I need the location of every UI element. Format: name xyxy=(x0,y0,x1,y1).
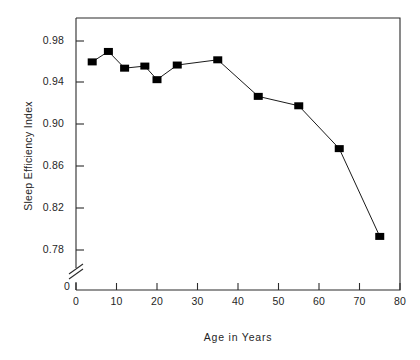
data-point-marker xyxy=(140,63,149,70)
y-axis-ticks xyxy=(76,41,84,250)
xtick-label-10: 10 xyxy=(105,295,129,307)
xtick-label-80: 80 xyxy=(388,295,412,307)
xtick-label-20: 20 xyxy=(145,295,169,307)
xtick-label-60: 60 xyxy=(307,295,331,307)
plot-frame xyxy=(76,18,400,290)
xtick-label-40: 40 xyxy=(226,295,250,307)
data-point-marker xyxy=(120,65,129,72)
data-point-marker xyxy=(88,58,97,65)
xtick-label-70: 70 xyxy=(348,295,372,307)
series-line xyxy=(92,51,380,236)
ytick-label-098: 0.98 xyxy=(28,34,64,46)
data-point-marker xyxy=(254,93,263,100)
data-point-marker xyxy=(173,62,182,69)
xtick-label-30: 30 xyxy=(186,295,210,307)
xtick-label-0: 0 xyxy=(64,295,88,307)
data-point-marker xyxy=(213,56,222,63)
data-point-marker xyxy=(294,102,303,109)
data-point-marker xyxy=(375,233,384,240)
x-axis-title: Age in Years xyxy=(76,331,400,343)
data-point-marker xyxy=(335,145,344,152)
data-point-marker xyxy=(104,48,113,55)
ytick-label-zero: 0 xyxy=(56,280,70,292)
xtick-label-50: 50 xyxy=(267,295,291,307)
data-series-sleep-efficiency xyxy=(88,48,385,240)
x-axis-ticks xyxy=(76,283,400,290)
data-point-marker xyxy=(153,76,162,83)
chart-figure: 0.98 0.94 0.90 0.86 0.82 0.78 0 0 10 20 … xyxy=(0,0,420,360)
y-axis-title: Sleep Efficiency Index xyxy=(22,66,34,246)
